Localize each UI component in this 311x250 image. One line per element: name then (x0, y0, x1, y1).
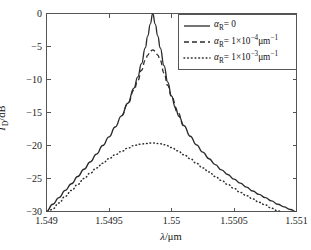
legend-item[interactable]: αR= 0 (183, 18, 292, 34)
legend-item[interactable]: αR= 1×10−4μm−1 (183, 34, 292, 50)
legend-unit-exponent: −1 (270, 34, 278, 42)
x-axis-title: λ/μm (160, 232, 181, 243)
x-tick-label: 1.549 (35, 216, 58, 226)
x-tick-label: 1.5505 (220, 216, 248, 226)
y-tick-label: −20 (12, 141, 42, 151)
legend-unit: μm (258, 52, 270, 62)
legend-unit-exponent: −1 (270, 50, 278, 58)
y-axis-unit: /dB (0, 106, 7, 121)
legend-label: αR= 1×10−4μm−1 (214, 35, 278, 49)
legend-exponent: −3 (250, 50, 258, 58)
y-axis-subscript: D (2, 121, 10, 126)
y-tick-label: −5 (12, 42, 42, 52)
y-tick-label: −25 (12, 174, 42, 184)
y-axis-title: TD/dB (0, 106, 11, 132)
curve-alpha-1e-4 (122, 50, 185, 127)
y-tick-label: −10 (12, 75, 42, 85)
x-tick-label: 1.55 (163, 216, 181, 226)
legend-line-sample-dotted (183, 52, 211, 64)
x-tick-label: 1.551 (285, 216, 308, 226)
legend-unit: μm (258, 36, 270, 46)
y-tick-label: −15 (12, 108, 42, 118)
legend-label: αR= 0 (214, 20, 236, 32)
legend-box: αR= 0αR= 1×10−4μm−1αR= 1×10−3μm−1 (178, 14, 297, 70)
legend-label: αR= 1×10−3μm−1 (214, 51, 278, 65)
legend-mantissa: 1×10 (231, 36, 250, 46)
curve-alpha-1e-3 (47, 143, 297, 219)
legend-item[interactable]: αR= 1×10−3μm−1 (183, 50, 292, 66)
x-tick-label: 1.5495 (95, 216, 123, 226)
legend-line-sample-dashed (183, 36, 211, 48)
legend-exponent: −4 (250, 34, 258, 42)
figure-container: 0−5−10−15−20−25−30 1.5491.54951.551.5505… (0, 0, 311, 250)
x-axis-unit: /μm (165, 231, 182, 242)
legend-line-sample-solid (183, 20, 211, 32)
y-tick-label: 0 (12, 9, 42, 19)
y-axis-symbol: T (0, 126, 7, 132)
legend-value: 0 (231, 19, 236, 29)
legend-mantissa: 1×10 (231, 52, 250, 62)
